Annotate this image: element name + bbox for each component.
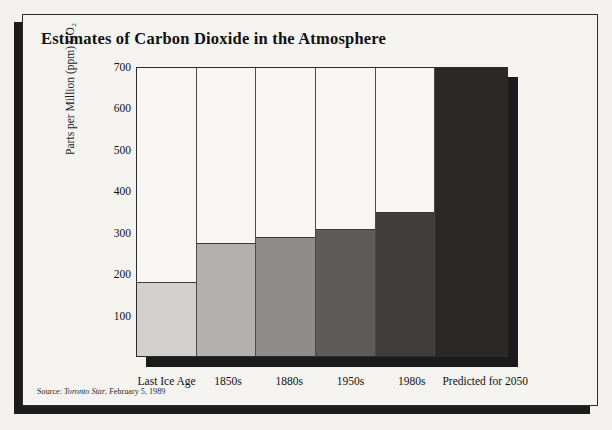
chart-card: Estimates of Carbon Dioxide in the Atmos…: [22, 14, 598, 406]
x-axis-label: Last Ice Age: [136, 375, 197, 387]
bar-cell: [376, 68, 436, 356]
bar: [435, 68, 507, 356]
source-prefix: Source:: [37, 387, 62, 396]
x-axis-label: 1980s: [381, 375, 442, 387]
source-date: , February 5, 1989: [105, 387, 165, 396]
y-tick-label: 600: [95, 102, 131, 114]
x-axis-label: Predicted for 2050: [442, 375, 528, 387]
x-axis-label: 1880s: [259, 375, 320, 387]
bar-cell: [256, 68, 316, 356]
y-axis-title: Parts per Million (ppm) CO₂: [64, 0, 76, 194]
y-axis-ticks: 700 600 500 400 300 200 100: [95, 67, 131, 357]
source-note: Source: Toronto Star, February 5, 1989: [37, 387, 165, 396]
y-tick-label: 100: [95, 310, 131, 322]
chart-canvas: Estimates of Carbon Dioxide in the Atmos…: [0, 0, 612, 430]
y-tick-label: 700: [95, 61, 131, 73]
bar: [376, 212, 435, 356]
x-axis-label: 1850s: [197, 375, 258, 387]
bar: [256, 237, 315, 356]
bar-cell: [197, 68, 257, 356]
y-tick-label: 500: [95, 144, 131, 156]
bar: [197, 243, 256, 356]
y-tick-label: 400: [95, 185, 131, 197]
bar: [137, 282, 196, 356]
y-tick-label: 300: [95, 227, 131, 239]
bar-cell: [316, 68, 376, 356]
bar: [316, 229, 375, 356]
x-axis-labels: Last Ice Age1850s1880s1950s1980sPredicte…: [136, 375, 528, 387]
plot-area: [136, 67, 508, 357]
source-publication: Toronto Star: [64, 387, 105, 396]
plot-wrapper: Parts per Million (ppm) CO₂ 700 600 500 …: [23, 15, 599, 407]
x-axis-label: 1950s: [320, 375, 381, 387]
y-tick-label: 200: [95, 268, 131, 280]
bar-cell: [435, 68, 507, 356]
bar-cell: [137, 68, 197, 356]
